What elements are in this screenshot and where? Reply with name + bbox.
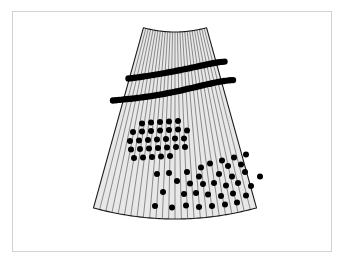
hit-marker <box>196 204 202 210</box>
hit-marker <box>184 169 190 175</box>
hit-marker <box>152 203 158 209</box>
hit-marker <box>127 138 133 144</box>
hit-marker <box>243 193 249 199</box>
hit-marker <box>182 144 188 150</box>
hit-marker <box>157 128 163 134</box>
hit-marker <box>128 147 134 153</box>
hit-marker <box>230 191 236 197</box>
hit-marker <box>200 181 206 187</box>
hit-marker <box>164 145 170 151</box>
hit-marker <box>187 181 193 187</box>
hit-marker <box>174 178 180 184</box>
hit-marker <box>230 77 236 83</box>
hit-marker <box>163 136 169 142</box>
hit-marker <box>172 136 178 142</box>
hit-marker <box>257 174 263 180</box>
hit-marker <box>209 203 215 209</box>
hit-marker <box>160 189 166 195</box>
hit-marker <box>229 174 235 180</box>
hit-marker <box>137 146 143 152</box>
hit-marker <box>211 180 217 186</box>
hit-marker <box>167 153 173 159</box>
hit-marker <box>175 127 181 133</box>
hit-marker <box>130 129 136 135</box>
hit-marker <box>184 128 190 134</box>
hit-marker <box>139 121 145 127</box>
hit-marker <box>136 138 142 144</box>
hit-marker <box>198 165 204 171</box>
hit-marker <box>140 155 146 161</box>
hit-marker <box>181 136 187 142</box>
hit-marker <box>219 158 225 164</box>
hit-marker <box>235 180 241 186</box>
hit-marker <box>242 169 248 175</box>
fan-detector-figure <box>0 0 345 266</box>
hit-marker <box>158 154 164 160</box>
hit-marker <box>173 144 179 150</box>
hit-marker <box>205 192 211 198</box>
hit-marker <box>169 205 175 211</box>
hit-marker <box>149 154 155 160</box>
hit-marker <box>221 58 227 64</box>
figure-page <box>0 0 345 266</box>
hit-marker <box>216 171 222 177</box>
hit-marker <box>145 137 151 143</box>
hit-marker <box>139 129 145 135</box>
hit-marker <box>166 170 172 176</box>
hit-marker <box>222 202 228 208</box>
hit-marker <box>207 161 213 167</box>
hit-marker <box>157 119 163 125</box>
hit-marker <box>243 152 249 158</box>
hit-marker <box>166 127 172 133</box>
hit-marker <box>223 183 229 189</box>
hit-marker <box>154 171 160 177</box>
hit-marker <box>225 163 231 169</box>
hit-marker <box>183 203 189 209</box>
hit-marker <box>131 155 137 161</box>
hit-marker <box>181 191 187 197</box>
hit-marker <box>155 145 161 151</box>
hit-marker <box>148 128 154 134</box>
hit-marker <box>238 162 244 168</box>
hit-marker <box>175 118 181 124</box>
hit-marker <box>146 146 152 152</box>
hit-marker <box>148 120 154 126</box>
hit-marker <box>234 200 240 206</box>
hit-marker <box>218 193 224 199</box>
hit-marker <box>196 174 202 180</box>
hit-marker <box>231 155 237 161</box>
hit-marker <box>166 119 172 125</box>
hit-marker <box>154 137 160 143</box>
hit-marker <box>248 183 254 189</box>
hit-marker <box>193 190 199 196</box>
